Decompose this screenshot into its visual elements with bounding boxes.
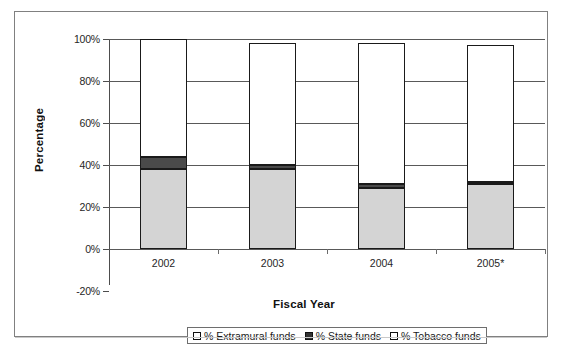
y-axis-tick-label: 40% (80, 159, 100, 171)
y-axis-tick-label: 0% (85, 243, 100, 255)
y-axis-tick (103, 291, 109, 292)
bar-segment-extra[interactable] (358, 43, 405, 184)
legend-label: % State funds (316, 330, 381, 342)
x-axis-tick (436, 249, 437, 254)
legend-label: % Extramural funds (204, 330, 296, 342)
y-axis-tick-label: 100% (74, 33, 100, 45)
legend-item[interactable]: % Tobacco funds (390, 330, 481, 342)
chart-legend: % Extramural funds% State funds% Tobacco… (187, 327, 487, 344)
bar-segment-extra[interactable] (467, 45, 514, 182)
y-axis-tick (103, 123, 109, 124)
y-axis-tick-label: 20% (80, 201, 100, 213)
y-axis-tick (103, 249, 109, 250)
y-axis-tick-label: 80% (80, 75, 100, 87)
legend-item[interactable]: % State funds (305, 330, 381, 342)
bar-stack[interactable] (249, 39, 296, 249)
bar-segment-extra[interactable] (249, 43, 296, 165)
x-axis-tick-label: 2003 (261, 257, 284, 269)
bar-segment-state[interactable] (467, 182, 514, 184)
x-axis-tick-label: 2002 (152, 257, 175, 269)
bar-segment-state[interactable] (249, 165, 296, 169)
bar-stack[interactable] (358, 39, 405, 249)
y-axis-tick (103, 207, 109, 208)
legend-swatch-icon (390, 332, 398, 340)
legend-swatch-icon (305, 332, 313, 340)
y-axis-tick-label: 60% (80, 117, 100, 129)
x-axis-tick-label: 2005* (477, 257, 504, 269)
x-axis-tick-label: 2004 (370, 257, 393, 269)
chart-frame: Percentage Fiscal Year -20%0%20%40%60%80… (14, 11, 548, 337)
bar-segment-tobacco[interactable] (249, 169, 296, 249)
bar-segment-tobacco[interactable] (140, 169, 187, 249)
bar-segment-state[interactable] (140, 157, 187, 170)
x-axis-tick (545, 249, 546, 254)
legend-label: % Tobacco funds (401, 330, 481, 342)
bar-segment-tobacco[interactable] (467, 184, 514, 249)
x-axis-tick (218, 249, 219, 254)
legend-item[interactable]: % Extramural funds (193, 330, 296, 342)
legend-swatch-icon (193, 332, 201, 340)
x-axis-title: Fiscal Year (15, 298, 547, 310)
y-axis-tick (103, 81, 109, 82)
plot-area: -20%0%20%40%60%80%100% 2002200320042005* (109, 39, 545, 249)
bar-stack[interactable] (467, 39, 514, 249)
bar-segment-state[interactable] (358, 184, 405, 188)
bar-segment-extra[interactable] (140, 39, 187, 157)
bar-stack[interactable] (140, 39, 187, 249)
y-axis-tick (103, 39, 109, 40)
y-axis-title: Percentage (33, 108, 51, 172)
x-axis-tick (327, 249, 328, 254)
bar-segment-tobacco[interactable] (358, 188, 405, 249)
y-axis-tick (103, 165, 109, 166)
y-axis-tick-label: -20% (76, 285, 100, 297)
